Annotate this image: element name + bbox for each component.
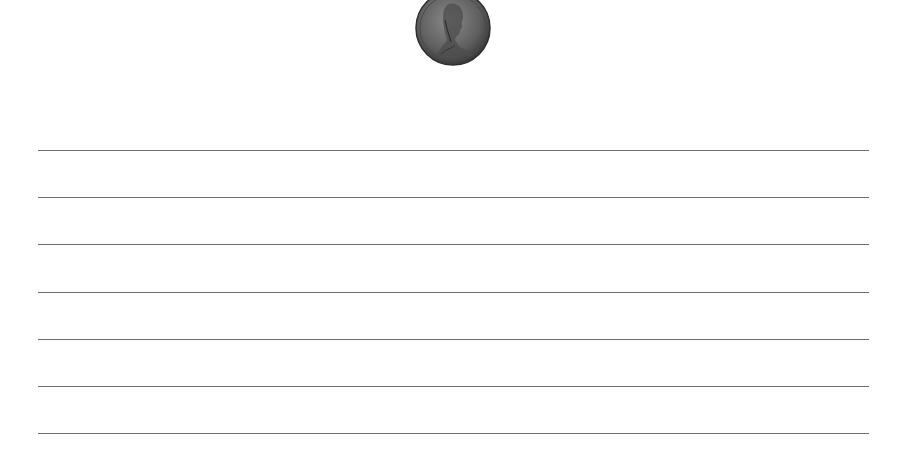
- writing-line: [38, 339, 869, 340]
- penny-coin-icon: [415, 0, 491, 66]
- writing-line: [38, 244, 869, 245]
- writing-line: [38, 386, 869, 387]
- writing-line: [38, 292, 869, 293]
- writing-line: [38, 433, 869, 434]
- writing-line: [38, 197, 869, 198]
- writing-line: [38, 150, 869, 151]
